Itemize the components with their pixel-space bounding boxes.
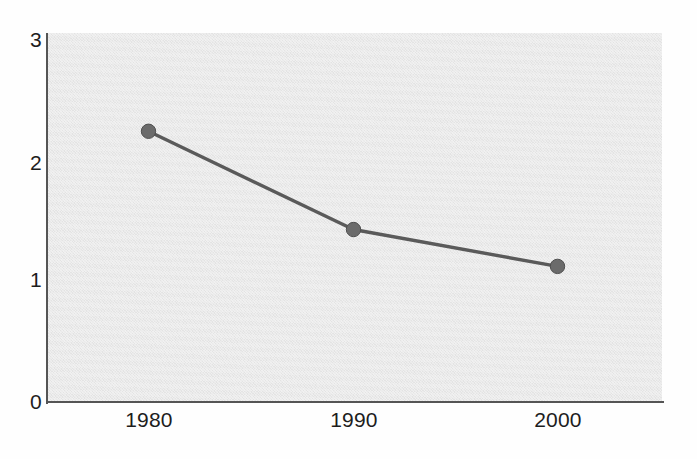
data-point-1990 (346, 222, 360, 236)
series-marker-group (141, 124, 564, 274)
series-line-path (149, 131, 558, 266)
data-series-overlay (0, 0, 697, 459)
data-point-2000 (550, 259, 564, 273)
line-chart-figure: 3 2 1 0 1980 1990 2000 (0, 0, 697, 459)
data-point-1980 (141, 124, 155, 138)
